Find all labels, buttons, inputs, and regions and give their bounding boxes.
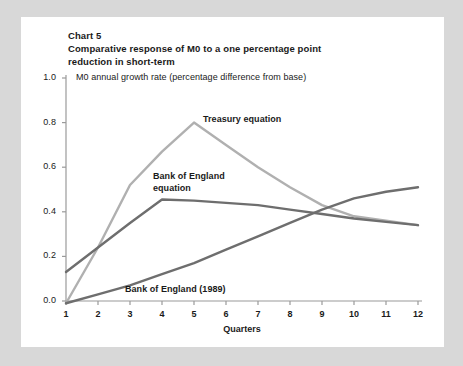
screenshot-root: Chart 5 Comparative response of M0 to a … [0, 0, 463, 366]
series-label-boe-1989: Bank of England (1989) [125, 284, 226, 296]
series-label-boe-equation: Bank of England equation [153, 171, 225, 194]
x-axis-tick-label: 3 [120, 309, 140, 319]
y-axis-tick-label: 0.2 [30, 250, 56, 260]
plot-area: 0.00.20.40.60.81.0 123456789101112 M0 an… [21, 17, 444, 347]
x-axis-tick-label: 11 [376, 309, 396, 319]
x-axis-tick-label: 2 [88, 309, 108, 319]
x-axis-tick-label: 1 [56, 309, 76, 319]
chart-card: Chart 5 Comparative response of M0 to a … [21, 17, 444, 347]
series-line [66, 200, 418, 272]
x-axis-tick-label: 10 [344, 309, 364, 319]
x-axis-title: Quarters [182, 324, 302, 334]
series-label-boe-equation-line2: equation [153, 183, 225, 195]
chart-svg [21, 17, 444, 347]
series-label-treasury: Treasury equation [203, 114, 281, 126]
y-axis-tick-label: 1.0 [30, 72, 56, 82]
x-axis-tick-label: 5 [184, 309, 204, 319]
x-axis-tick-label: 9 [312, 309, 332, 319]
x-axis-tick-label: 8 [280, 309, 300, 319]
y-axis-tick-label: 0.0 [30, 295, 56, 305]
x-axis-tick-label: 6 [216, 309, 236, 319]
y-axis-tick-label: 0.6 [30, 161, 56, 171]
series-label-boe-equation-line1: Bank of England [153, 171, 225, 183]
chart-subtitle: M0 annual growth rate (percentage differ… [76, 72, 306, 82]
series-paths [66, 123, 418, 304]
y-axis-tick-label: 0.4 [30, 206, 56, 216]
x-axis-tick-label: 12 [408, 309, 428, 319]
x-axis-tick-label: 7 [248, 309, 268, 319]
series-line [66, 123, 418, 304]
x-axis-tick-label: 4 [152, 309, 172, 319]
y-axis-tick-label: 0.8 [30, 117, 56, 127]
